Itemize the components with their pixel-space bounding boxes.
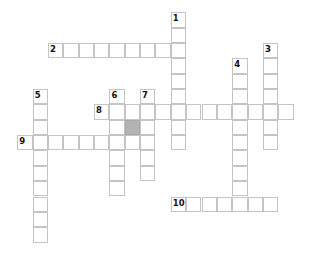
clue-number: 7 [142, 90, 148, 100]
crossword-cell[interactable] [217, 104, 232, 119]
crossword-cell[interactable] [171, 120, 186, 135]
crossword-cell[interactable] [232, 120, 247, 135]
crossword-cell[interactable] [33, 166, 48, 181]
crossword-cell[interactable] [94, 135, 109, 150]
crossword-cell[interactable] [263, 135, 278, 150]
clue-number: 9 [19, 136, 25, 146]
clue-number: 2 [50, 44, 56, 54]
crossword-cell[interactable] [79, 135, 94, 150]
crossword-cell[interactable] [171, 28, 186, 43]
clue-number: 5 [35, 90, 41, 100]
crossword-cell[interactable] [33, 197, 48, 212]
crossword-cell[interactable]: 10 [171, 197, 186, 212]
crossword-cell[interactable] [232, 74, 247, 89]
crossword-cell[interactable]: 8 [94, 104, 109, 119]
crossword-cell[interactable] [109, 120, 124, 135]
crossword-cell[interactable] [232, 181, 247, 196]
crossword-cell[interactable]: 1 [171, 12, 186, 27]
crossword-cell[interactable] [140, 120, 155, 135]
crossword-cell[interactable] [232, 104, 247, 119]
crossword-cell[interactable] [278, 104, 293, 119]
crossword-cell[interactable] [232, 166, 247, 181]
crossword-cell[interactable] [171, 135, 186, 150]
crossword-cell[interactable] [140, 166, 155, 181]
blocked-cell [125, 120, 140, 135]
crossword-cell[interactable] [155, 104, 170, 119]
crossword-cell[interactable] [125, 43, 140, 58]
crossword-cell[interactable] [125, 135, 140, 150]
clue-number: 6 [111, 90, 117, 100]
crossword-cell[interactable] [109, 104, 124, 119]
clue-number: 4 [234, 59, 240, 69]
crossword-cell[interactable] [109, 135, 124, 150]
crossword-cell[interactable] [248, 197, 263, 212]
crossword-cell[interactable] [109, 43, 124, 58]
crossword-cell[interactable] [33, 120, 48, 135]
crossword-cell[interactable] [140, 150, 155, 165]
crossword-cell[interactable] [186, 197, 201, 212]
crossword-cell[interactable] [232, 150, 247, 165]
crossword-cell[interactable] [48, 135, 63, 150]
crossword-cell[interactable] [125, 104, 140, 119]
clue-number: 3 [265, 44, 271, 54]
crossword-cell[interactable] [109, 181, 124, 196]
crossword-cell[interactable] [263, 104, 278, 119]
crossword-cell[interactable] [202, 197, 217, 212]
crossword-cell[interactable] [33, 227, 48, 242]
crossword-cell[interactable] [140, 43, 155, 58]
crossword-grid: 12345678910 [0, 0, 309, 259]
crossword-cell[interactable] [217, 197, 232, 212]
crossword-cell[interactable] [171, 74, 186, 89]
crossword-cell[interactable] [171, 43, 186, 58]
crossword-cell[interactable]: 4 [232, 58, 247, 73]
crossword-cell[interactable] [171, 89, 186, 104]
clue-number: 8 [96, 105, 102, 115]
crossword-cell[interactable] [232, 89, 247, 104]
crossword-cell[interactable] [263, 120, 278, 135]
crossword-cell[interactable] [248, 104, 263, 119]
crossword-cell[interactable]: 5 [33, 89, 48, 104]
clue-number: 10 [173, 198, 185, 208]
crossword-cell[interactable] [232, 197, 247, 212]
crossword-cell[interactable] [263, 89, 278, 104]
crossword-cell[interactable]: 9 [17, 135, 32, 150]
crossword-cell[interactable] [171, 104, 186, 119]
crossword-cell[interactable] [202, 104, 217, 119]
crossword-cell[interactable] [109, 150, 124, 165]
crossword-cell[interactable] [263, 197, 278, 212]
crossword-cell[interactable] [263, 58, 278, 73]
crossword-cell[interactable]: 2 [48, 43, 63, 58]
crossword-cell[interactable] [263, 74, 278, 89]
crossword-cell[interactable] [232, 135, 247, 150]
crossword-cell[interactable] [63, 135, 78, 150]
crossword-cell[interactable] [33, 150, 48, 165]
crossword-cell[interactable] [94, 43, 109, 58]
crossword-cell[interactable] [33, 181, 48, 196]
crossword-cell[interactable] [109, 166, 124, 181]
crossword-cell[interactable] [155, 43, 170, 58]
crossword-cell[interactable] [171, 58, 186, 73]
clue-number: 1 [173, 13, 179, 23]
crossword-cell[interactable] [79, 43, 94, 58]
crossword-cell[interactable] [33, 104, 48, 119]
crossword-cell[interactable]: 3 [263, 43, 278, 58]
crossword-cell[interactable] [140, 135, 155, 150]
crossword-cell[interactable] [63, 43, 78, 58]
crossword-cell[interactable] [140, 104, 155, 119]
crossword-cell[interactable]: 6 [109, 89, 124, 104]
crossword-cell[interactable] [33, 212, 48, 227]
crossword-cell[interactable] [33, 135, 48, 150]
crossword-cell[interactable] [186, 104, 201, 119]
crossword-cell[interactable]: 7 [140, 89, 155, 104]
